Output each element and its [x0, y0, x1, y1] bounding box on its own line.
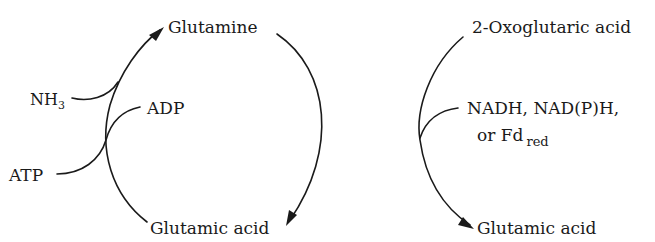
atp-label: ATP: [8, 165, 43, 185]
cofactor-line2-label: or Fdred: [477, 125, 549, 149]
atp-adp-branch: [57, 107, 140, 174]
glutamic-acid-label-right: Glutamic acid: [477, 218, 597, 238]
left-arc-arrow: [106, 30, 160, 222]
oxoglutaric-acid-label: 2-Oxoglutaric acid: [472, 17, 631, 37]
left-cycle: Glutamine Glutamic acid NH3 ADP ATP: [8, 17, 322, 238]
diagram-canvas: Glutamine Glutamic acid NH3 ADP ATP 2-Ox…: [0, 0, 655, 242]
right-main-arrow: [419, 37, 470, 225]
right-pathway: 2-Oxoglutaric acid NADH, NAD(P)H, or Fdr…: [419, 17, 631, 238]
arrowhead-icon: [149, 27, 164, 41]
cofactor-line1-label: NADH, NAD(P)H,: [467, 98, 619, 118]
glutamic-acid-label-left: Glutamic acid: [150, 218, 270, 238]
glutamine-label: Glutamine: [168, 17, 258, 37]
adp-label: ADP: [146, 98, 184, 118]
cofactor-branch: [420, 108, 458, 138]
nh3-input-branch: [72, 82, 118, 99]
right-arc-arrow: [277, 34, 322, 220]
nh3-label: NH3: [30, 90, 65, 112]
